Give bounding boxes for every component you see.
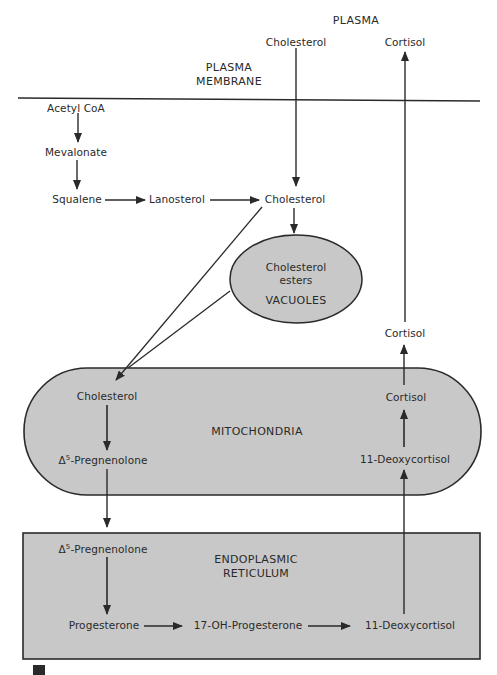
plasma-membrane-line <box>18 98 480 101</box>
node-lanosterol: Lanosterol <box>149 193 205 206</box>
node-cytosol-cholesterol: Cholesterol <box>265 193 325 206</box>
node-cholesterol-esters-line1: Cholesterol <box>266 261 326 274</box>
arrow-vacuole-to-mito <box>128 291 230 368</box>
region-label-plasma-membrane-line2: MEMBRANE <box>196 75 262 89</box>
node-cholesterol-esters: Cholesterol esters <box>266 261 326 287</box>
node-mito-pregnenolone: Δ5-Pregnenolone <box>59 454 148 467</box>
node-mito-cortisol: Cortisol <box>386 391 427 404</box>
pregnenolone-name: -Pregnenolone <box>70 543 147 555</box>
pregnenolone-name: -Pregnenolone <box>70 454 147 466</box>
node-er-deoxycortisol: 11-Deoxycortisol <box>365 619 455 632</box>
region-label-er-line2: RETICULUM <box>214 567 298 581</box>
region-label-er: ENDOPLASMIC RETICULUM <box>214 553 298 581</box>
node-mito-cholesterol: Cholesterol <box>77 390 137 403</box>
node-progesterone: Progesterone <box>69 619 140 632</box>
region-label-mitochondria: MITOCHONDRIA <box>211 425 302 439</box>
node-plasma-cortisol: Cortisol <box>385 36 426 49</box>
region-label-plasma-membrane-line1: PLASMA <box>196 61 262 75</box>
node-cholesterol-esters-line2: esters <box>266 274 326 287</box>
region-label-er-line1: ENDOPLASMIC <box>214 553 298 567</box>
region-label-vacuoles: VACUOLES <box>265 294 326 308</box>
region-label-plasma-membrane: PLASMA MEMBRANE <box>196 61 262 89</box>
node-cytosol-cortisol: Cortisol <box>385 327 426 340</box>
node-mito-deoxycortisol: 11-Deoxycortisol <box>360 453 450 466</box>
node-acetyl-coa: Acetyl CoA <box>47 102 105 115</box>
node-17oh-progesterone: 17-OH-Progesterone <box>194 619 303 632</box>
node-plasma-cholesterol: Cholesterol <box>266 36 326 49</box>
figure-mark <box>33 665 45 675</box>
node-squalene: Squalene <box>52 193 102 206</box>
node-er-pregnenolone: Δ5-Pregnenolone <box>59 543 148 556</box>
node-mevalonate: Mevalonate <box>45 146 107 159</box>
region-label-plasma: PLASMA <box>333 14 379 28</box>
